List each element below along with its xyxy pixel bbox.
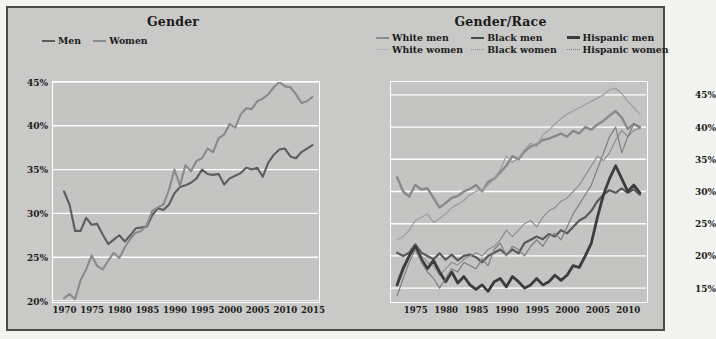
series-line bbox=[64, 145, 312, 244]
series-line bbox=[64, 82, 312, 299]
x-axis-tick-label: 2000 bbox=[218, 305, 242, 315]
legend-label-women: Women bbox=[109, 35, 147, 46]
x-axis-tick-label: 2010 bbox=[616, 305, 640, 315]
legend-row-women: White women Black women Hispanic women bbox=[376, 44, 659, 56]
series-canvas-gender-race bbox=[391, 82, 646, 301]
x-axis-tick-label: 1985 bbox=[135, 305, 159, 315]
legend-label-black-men: Black men bbox=[487, 32, 542, 43]
chart-figure: Gender Men Women 20%25%30%35%40%45% 1970… bbox=[6, 6, 665, 331]
x-axis-tick-label: 1980 bbox=[108, 305, 132, 315]
y-axis-tick-label: 45% bbox=[27, 78, 48, 88]
legend-gender-race: White men Black men Hispanic men White w… bbox=[376, 32, 659, 56]
y-axis-gender: 20%25%30%35%40%45% bbox=[8, 8, 48, 329]
line-swatch-icon bbox=[93, 40, 106, 42]
legend-item-hispanic-men[interactable]: Hispanic men bbox=[567, 32, 655, 44]
line-swatch-icon bbox=[471, 37, 484, 39]
legend-label-men: Men bbox=[58, 35, 81, 46]
x-axis-tick-label: 2005 bbox=[586, 305, 610, 315]
y-axis-tick-label: 40% bbox=[27, 121, 48, 131]
y-axis-tick-label: 25% bbox=[695, 219, 716, 229]
legend-gender: Men Women bbox=[42, 35, 157, 46]
y-axis-tick-label: 30% bbox=[695, 187, 716, 197]
y-axis-tick-label: 20% bbox=[27, 297, 48, 307]
x-axis-tick-label: 1975 bbox=[404, 305, 428, 315]
y-axis-tick-label: 35% bbox=[695, 155, 716, 165]
legend-item-women[interactable]: Women bbox=[93, 35, 147, 46]
x-axis-tick-label: 2005 bbox=[246, 305, 270, 315]
legend-row-men: White men Black men Hispanic men bbox=[376, 32, 659, 44]
legend-label-hispanic-women: Hispanic women bbox=[583, 44, 669, 55]
x-axis-tick-label: 1995 bbox=[191, 305, 215, 315]
dotted-line-swatch-icon bbox=[567, 49, 580, 50]
panel-gender-race: Gender/Race White men Black men Hispanic… bbox=[338, 8, 663, 329]
panel-gender-title: Gender bbox=[8, 14, 338, 29]
legend-item-black-men[interactable]: Black men bbox=[471, 32, 559, 44]
x-axis-tick-label: 2010 bbox=[273, 305, 297, 315]
legend-item-white-men[interactable]: White men bbox=[376, 32, 464, 44]
x-axis-tick-label: 2000 bbox=[556, 305, 580, 315]
series-line bbox=[397, 124, 640, 296]
y-axis-tick-label: 40% bbox=[695, 123, 716, 133]
panel-gender-race-title: Gender/Race bbox=[338, 14, 663, 29]
legend-item-hispanic-women[interactable]: Hispanic women bbox=[567, 44, 655, 56]
x-axis-tick-label: 1980 bbox=[434, 305, 458, 315]
panel-gender: Gender Men Women 20%25%30%35%40%45% 1970… bbox=[8, 8, 338, 329]
y-axis-tick-label: 35% bbox=[27, 165, 48, 175]
y-axis-tick-label: 45% bbox=[695, 90, 716, 100]
series-line bbox=[397, 88, 640, 239]
x-axis-tick-label: 1970 bbox=[53, 305, 77, 315]
series-canvas-gender bbox=[53, 82, 318, 301]
x-axis-tick-label: 1975 bbox=[80, 305, 104, 315]
x-axis-tick-label: 1985 bbox=[465, 305, 489, 315]
legend-label-white-women: White women bbox=[392, 44, 463, 55]
y-axis-tick-label: 20% bbox=[695, 251, 716, 261]
legend-item-black-women[interactable]: Black women bbox=[471, 44, 559, 56]
legend-item-white-women[interactable]: White women bbox=[376, 44, 464, 56]
dotted-line-swatch-icon bbox=[471, 49, 484, 50]
y-axis-tick-label: 30% bbox=[27, 209, 48, 219]
plot-area-gender-race bbox=[390, 81, 648, 303]
x-axis-tick-label: 1995 bbox=[525, 305, 549, 315]
y-axis-gender-race: 15%20%25%30%35%40%45% bbox=[668, 8, 716, 329]
line-swatch-icon bbox=[376, 37, 389, 39]
line-swatch-icon bbox=[567, 36, 580, 39]
x-axis-tick-label: 2015 bbox=[301, 305, 325, 315]
legend-label-hispanic-men: Hispanic men bbox=[583, 32, 655, 43]
plot-area-gender bbox=[52, 81, 320, 303]
x-axis-tick-label: 1990 bbox=[495, 305, 519, 315]
dotted-line-swatch-icon bbox=[376, 49, 389, 50]
y-axis-tick-label: 25% bbox=[27, 253, 48, 263]
legend-label-black-women: Black women bbox=[487, 44, 556, 55]
y-axis-tick-label: 15% bbox=[695, 284, 716, 294]
series-line bbox=[397, 166, 640, 292]
x-axis-tick-label: 1990 bbox=[163, 305, 187, 315]
legend-label-white-men: White men bbox=[392, 32, 449, 43]
